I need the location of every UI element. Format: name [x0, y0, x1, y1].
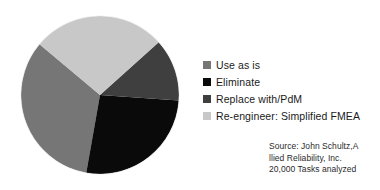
source-note: Source: John Schultz,A llied Reliability… — [269, 141, 379, 176]
legend-item-eliminate[interactable]: Eliminate — [203, 75, 378, 89]
source-line-1: Source: John Schultz,A — [269, 141, 379, 153]
chart-page: Use as is Eliminate Replace with/PdM Re-… — [0, 0, 380, 190]
pie-chart-svg — [0, 0, 195, 190]
pie-slice-eliminate[interactable] — [86, 95, 179, 174]
legend-item-label: Eliminate — [216, 76, 260, 88]
legend-item-label: Use as is — [216, 59, 260, 71]
legend-item-re-engineer[interactable]: Re-engineer: Simplified FMEA — [203, 109, 378, 123]
chart-legend: Use as is Eliminate Replace with/PdM Re-… — [203, 58, 378, 126]
source-line-2: llied Reliability, Inc. — [269, 153, 379, 165]
pie-slices — [21, 16, 179, 174]
legend-item-label: Re-engineer: Simplified FMEA — [216, 110, 360, 122]
legend-swatch-icon — [203, 112, 211, 120]
legend-swatch-icon — [203, 61, 211, 69]
legend-item-label: Replace with/PdM — [216, 93, 302, 105]
legend-item-use-as-is[interactable]: Use as is — [203, 58, 378, 72]
pie-chart — [0, 0, 195, 190]
legend-swatch-icon — [203, 95, 211, 103]
legend-swatch-icon — [203, 78, 211, 86]
source-line-3: 20,000 Tasks analyzed — [269, 164, 379, 176]
legend-item-replace-with-pdm[interactable]: Replace with/PdM — [203, 92, 378, 106]
